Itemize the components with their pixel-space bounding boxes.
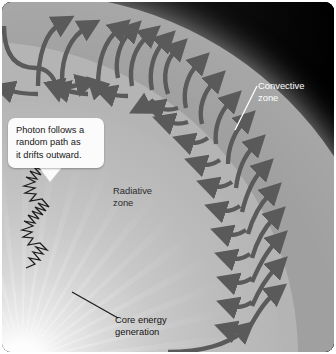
label-core-line-2: generation	[115, 326, 167, 338]
label-radiative-line-2: zone	[113, 197, 152, 209]
label-radiative-line-1: Radiative	[113, 185, 152, 197]
label-radiative-zone: Radiative zone	[113, 185, 152, 208]
photon-random-walk-callout: Photon follows a random path as it drift…	[8, 118, 104, 168]
label-core-line-1: Core energy	[115, 314, 167, 326]
convective-leader-line	[235, 86, 257, 130]
label-convective-line-1: Convective	[258, 80, 304, 92]
label-convective-zone: Convective zone	[258, 80, 304, 103]
callout-tail	[38, 166, 63, 182]
label-convective-line-2: zone	[258, 92, 304, 104]
label-core-energy-generation: Core energy generation	[115, 314, 167, 337]
callout-line-1: Photon follows a	[16, 124, 97, 136]
diagram-panel: Photon follows a random path as it drift…	[2, 2, 334, 352]
figure-canvas: Photon follows a random path as it drift…	[0, 0, 336, 354]
callout-line-3: it drifts outward.	[16, 149, 97, 161]
core-leader-line	[72, 292, 118, 318]
callout-line-2: random path as	[16, 136, 97, 148]
